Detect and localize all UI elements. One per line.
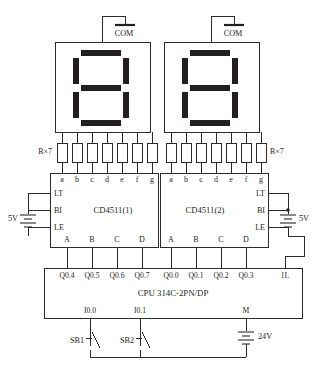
- input-loop: SB1 SB2 24V: [70, 318, 272, 357]
- resistor: [226, 143, 236, 162]
- ic-2-pin-B: B: [193, 235, 198, 244]
- ic-2-pin-g: g: [259, 175, 263, 184]
- segment-b-2: [232, 58, 238, 84]
- ic-1-pin-e: e: [120, 175, 124, 184]
- resistor: [166, 143, 176, 162]
- resistor-bank-1-label: R×7: [38, 147, 52, 156]
- segment-d-2: [190, 120, 230, 126]
- ic-2-pin-d: d: [214, 175, 218, 184]
- resistor: [57, 143, 67, 162]
- display-1-segments: [73, 50, 129, 126]
- ic-1-pin-a: a: [60, 175, 64, 184]
- ic-1-to-cpu-leads: [67, 247, 142, 268]
- resistor: [181, 143, 191, 162]
- supply-to-1L-wire: [285, 236, 304, 268]
- sb2-label: SB2: [120, 336, 134, 345]
- cpu-terminal-i01: I0.1: [134, 306, 146, 315]
- resistor-bank-2-label: R×7: [270, 147, 284, 156]
- display-1-pin-leads: [62, 132, 152, 143]
- resistor: [117, 143, 127, 162]
- cpu-terminal-q03: Q0.3: [239, 271, 254, 280]
- segment-f-1: [73, 58, 79, 84]
- segment-a-2: [190, 50, 230, 56]
- ic-2-pin-le: LE: [255, 223, 265, 232]
- supply-5v-left-label: 5V: [8, 214, 18, 223]
- segment-f-2: [182, 58, 188, 84]
- ic-2-pin-C: C: [218, 235, 223, 244]
- cpu-terminal-q06: Q0.6: [110, 271, 125, 280]
- resistor: [132, 143, 142, 162]
- resistor-bank-2: [166, 143, 266, 162]
- resistor: [196, 143, 206, 162]
- resistor: [241, 143, 251, 162]
- resistor: [147, 143, 157, 162]
- junction-dot: [286, 208, 289, 211]
- ic-2-label: CD4511(2): [186, 205, 225, 215]
- resistor: [72, 143, 82, 162]
- com-label-2: COM: [224, 29, 243, 38]
- ic-2-pin-A: A: [168, 235, 174, 244]
- segment-e-1: [73, 92, 79, 118]
- cpu-model-label: CPU 314C-2PN/DP: [138, 288, 209, 298]
- display-2-pin-leads: [171, 132, 261, 143]
- ic-1-pin-d: d: [105, 175, 109, 184]
- sb1-label: SB1: [70, 336, 84, 345]
- ic-1-label: CD4511(1): [94, 205, 133, 215]
- cpu-terminal-i00: I0.0: [84, 306, 96, 315]
- circuit-diagram: COM: [0, 0, 316, 372]
- segment-d-1: [81, 120, 121, 126]
- ic-1-pin-C: C: [114, 235, 119, 244]
- ic-1-pin-D: D: [139, 235, 145, 244]
- ic-cd4511-2: a b c d e f g LT BI LE CD4511(2) A B C D…: [160, 173, 309, 268]
- ic-2-pin-lt: LT: [256, 189, 265, 198]
- ic-1-pin-lt: LT: [54, 189, 63, 198]
- resistor-1-to-ic-leads: [62, 162, 152, 173]
- ic-1-pin-B: B: [89, 235, 94, 244]
- display-2-segments: [182, 50, 238, 126]
- cpu-terminal-q02: Q0.2: [214, 271, 229, 280]
- ic-2-pin-bi: BI: [257, 206, 265, 215]
- ic-2-pin-b: b: [184, 175, 188, 184]
- ic-2-pin-e: e: [229, 175, 233, 184]
- ic-1-pin-b: b: [75, 175, 79, 184]
- ic-2-pin-c: c: [199, 175, 203, 184]
- segment-b-1: [123, 58, 129, 84]
- supply-5v-left: 5V: [8, 193, 50, 236]
- segment-e-2: [182, 92, 188, 118]
- cpu-terminal-q05: Q0.5: [85, 271, 100, 280]
- ic-1-pin-f: f: [136, 175, 139, 184]
- display-2-com-lead: COM: [211, 16, 244, 42]
- ic-2-pin-D: D: [243, 235, 249, 244]
- ic-1-pin-A: A: [64, 235, 70, 244]
- segment-a-1: [81, 50, 121, 56]
- com-label-1: COM: [115, 29, 134, 38]
- cpu-terminal-q00: Q0.0: [164, 271, 179, 280]
- push-button-sb1[interactable]: SB1: [70, 332, 100, 348]
- ic-2-to-cpu-leads: [171, 247, 246, 268]
- cpu-terminal-m: M: [243, 306, 250, 315]
- ic-1-pin-g: g: [150, 175, 154, 184]
- circuit-diagram-canvas: COM: [0, 0, 316, 372]
- cpu-terminal-q04: Q0.4: [60, 271, 75, 280]
- ic-2-pin-f: f: [245, 175, 248, 184]
- cpu-terminal-q01: Q0.1: [189, 271, 204, 280]
- resistor-2-to-ic-leads: [171, 162, 261, 173]
- push-button-sb2[interactable]: SB2: [120, 332, 150, 348]
- ic-1-pin-le: LE: [54, 223, 64, 232]
- display-1-com-lead: COM: [102, 16, 135, 42]
- supply-5v-right: 5V: [268, 193, 309, 236]
- resistor: [256, 143, 266, 162]
- resistor: [211, 143, 221, 162]
- supply-24v: 24V: [238, 332, 272, 344]
- cpu-terminal-q07: Q0.7: [135, 271, 150, 280]
- display-2-group: COM: [164, 16, 284, 173]
- supply-5v-right-label: 5V: [299, 214, 309, 223]
- ic-1-pin-bi: BI: [54, 206, 62, 215]
- resistor: [87, 143, 97, 162]
- display-1-group: COM: [38, 16, 157, 173]
- ic-cd4511-1: a b c d e f g LT BI LE CD4511(1) A B C D: [8, 173, 158, 268]
- ic-1-pin-c: c: [90, 175, 94, 184]
- segment-c-1: [123, 92, 129, 118]
- segment-g-1: [81, 85, 121, 91]
- resistor-bank-1: [57, 143, 157, 162]
